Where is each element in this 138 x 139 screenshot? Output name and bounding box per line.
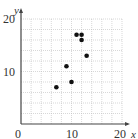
y-axis-arrow-icon [19, 8, 23, 13]
scatter-plot: y x 0 10 20 10 20 [0, 0, 138, 139]
x-axis-label: x [130, 128, 136, 139]
x-tick-20: 20 [114, 127, 126, 139]
data-point [54, 85, 59, 90]
x-axis-arrow-icon [125, 122, 130, 126]
data-point [84, 53, 89, 58]
data-point [69, 80, 74, 85]
data-point [74, 32, 79, 37]
grid-lines [21, 19, 122, 124]
data-point [79, 32, 84, 37]
x-tick-10: 10 [66, 127, 78, 139]
x-tick-0: 0 [15, 127, 21, 139]
y-tick-20: 20 [3, 12, 15, 26]
data-point [79, 38, 84, 43]
y-tick-10: 10 [3, 65, 15, 79]
data-point [64, 64, 69, 69]
